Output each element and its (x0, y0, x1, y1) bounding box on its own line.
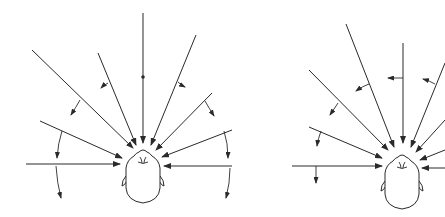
stimulus-rays (292, 24, 445, 168)
turn-arrow-icon (224, 131, 228, 158)
ray-arrow (98, 53, 136, 145)
head-top-view (122, 150, 164, 203)
figure-canvas (0, 0, 445, 217)
ray-arrow (151, 35, 196, 145)
ray-arrow (32, 50, 133, 148)
right-panel (292, 24, 445, 209)
center-dot (141, 75, 145, 79)
ray-arrow (162, 130, 232, 157)
ray-arrow (309, 70, 388, 150)
left-panel (26, 13, 232, 203)
turn-arrow-icon (423, 79, 435, 84)
turn-arrow-icon (71, 100, 80, 115)
ray-arrow (411, 63, 445, 147)
head-top-view (381, 155, 423, 209)
ray-arrow (309, 127, 382, 158)
turn-arrow-icon (57, 131, 62, 158)
turn-arrow-icon (226, 168, 230, 198)
turn-arrow-icon (101, 83, 108, 88)
turn-arrow-icon (178, 82, 185, 87)
turn-arrow-icon (317, 131, 321, 146)
turn-arrow-icon (356, 84, 369, 91)
head-outline (385, 155, 419, 209)
turn-arrow-icon (56, 166, 61, 198)
ray-arrow (346, 24, 394, 147)
turn-arrow-icon (330, 103, 338, 115)
ray-arrow (420, 150, 445, 160)
stimulus-rays (26, 13, 232, 166)
turn-arrow-icon (205, 101, 214, 116)
head-outline (126, 150, 160, 203)
ray-arrow (40, 121, 122, 158)
